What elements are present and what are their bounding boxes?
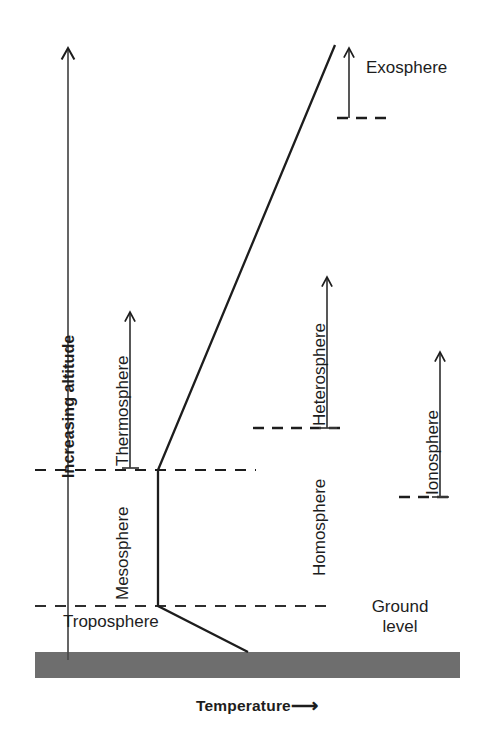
layer-label-homosphere: Homosphere xyxy=(310,479,329,576)
layer-label-thermosphere: Thermosphere xyxy=(113,355,132,466)
layer-label-ionosphere: Ionosphere xyxy=(423,410,442,495)
temperature-profile-curve xyxy=(158,45,335,652)
layer-label-exosphere: Exosphere xyxy=(366,58,447,77)
y-axis-title: Increasing altitude xyxy=(60,335,78,478)
ground-slab xyxy=(35,652,460,678)
ground-level-line-2: level xyxy=(383,617,418,636)
x-axis-arrow-icon: ⟶ xyxy=(291,695,318,716)
layer-label-troposphere: Troposphere xyxy=(63,612,159,631)
layer-label-heterosphere: Heterosphere xyxy=(310,323,329,426)
ground-level-label: Ground level xyxy=(352,597,448,637)
ground-level-line-1: Ground xyxy=(372,597,429,616)
atmosphere-diagram: Increasing altitude Thermosphere Mesosph… xyxy=(0,0,485,751)
layer-label-mesosphere: Mesosphere xyxy=(113,506,132,600)
x-axis-title: Temperature xyxy=(196,697,291,714)
